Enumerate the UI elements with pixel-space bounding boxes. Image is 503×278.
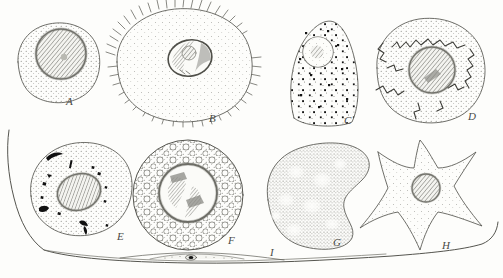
label-f: F (228, 235, 235, 246)
cell-a (18, 23, 100, 103)
cell-types-plate: A B C D E F G H I (0, 0, 503, 278)
label-b: B (209, 113, 216, 124)
label-e: E (117, 231, 124, 242)
cell-d (376, 18, 485, 123)
label-h: H (442, 240, 450, 251)
cell-b (106, 0, 261, 127)
label-a: A (66, 96, 73, 107)
cell-e (31, 142, 132, 235)
label-g: G (333, 237, 341, 248)
label-d: D (468, 111, 476, 122)
cell-h (360, 140, 482, 250)
label-i: I (270, 247, 274, 258)
cell-c (291, 21, 358, 126)
cell-g (267, 143, 369, 249)
cell-f (133, 140, 243, 250)
plate-drawing (0, 0, 503, 278)
label-c: C (344, 115, 351, 126)
